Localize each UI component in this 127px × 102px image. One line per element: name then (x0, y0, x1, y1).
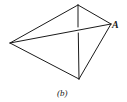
edge-left-top (10, 5, 78, 43)
edge-a-bottom (79, 24, 111, 79)
edge-left-a (10, 24, 111, 43)
tetrahedron-diagram: A (b) (0, 0, 127, 102)
edge-left-bottom (10, 43, 79, 79)
edge-top-a (78, 5, 111, 24)
figure-caption: (b) (57, 88, 68, 98)
edge-top-bottom-lower (78, 33, 79, 79)
vertex-label-a: A (111, 19, 119, 30)
